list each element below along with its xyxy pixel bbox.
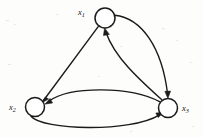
- node-x2-label: x2: [8, 102, 16, 113]
- edge-x1-to-x2: [42, 27, 99, 103]
- edge-x3-to-x1: [103, 28, 161, 100]
- node-x3[interactable]: x3: [159, 99, 189, 118]
- node-x1-circle[interactable]: [95, 8, 115, 28]
- node-x1-label: x1: [77, 7, 85, 18]
- node-x3-circle[interactable]: [159, 99, 178, 118]
- edge-x2-to-x3: [31, 112, 164, 127]
- edge-x3-to-x2: [45, 90, 160, 104]
- node-x3-label: x3: [181, 103, 189, 114]
- node-x1[interactable]: x1: [77, 7, 115, 28]
- directed-graph: x1 x2 x3: [0, 0, 203, 137]
- node-x2-circle[interactable]: [26, 98, 45, 117]
- diagram-canvas: x1 x2 x3: [0, 0, 203, 137]
- edge-x1-to-x3: [115, 15, 171, 98]
- node-x2[interactable]: x2: [8, 98, 45, 117]
